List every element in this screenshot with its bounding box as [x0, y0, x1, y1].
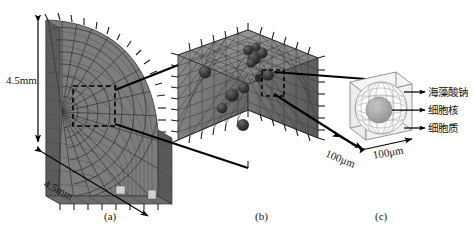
- panel-c-cell-unit: [340, 72, 425, 149]
- panel-b-caption: (b): [255, 211, 268, 222]
- panel-c-caption: (c): [375, 211, 387, 222]
- panel-c-cell-nucleus: [366, 97, 392, 123]
- legend-label-nucleus: 细胞核: [428, 105, 458, 116]
- legend-label-cytoplasm: 细胞质: [428, 123, 458, 134]
- panel-a-height-label: 4.5mm: [6, 75, 37, 86]
- panel-a-sector-mesh: [45, 13, 172, 210]
- panel-b-cube-mesh: [171, 23, 325, 168]
- panel-a-caption: (a): [104, 211, 116, 222]
- legend-label-alginate: 海藻酸钠: [428, 87, 468, 98]
- figure-canvas: 4.5mm 4.5mm 100μm 100μm 海藻酸钠 细胞核 细胞质 (a)…: [0, 0, 475, 232]
- panel-c-depth-arrow: [340, 137, 362, 148]
